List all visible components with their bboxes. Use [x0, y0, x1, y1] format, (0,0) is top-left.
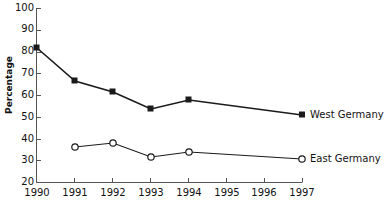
- data-point-marker: [186, 149, 192, 155]
- data-point-marker: [110, 140, 116, 146]
- legend-item-west-germany: West Germany: [310, 109, 384, 120]
- data-point-marker: [299, 112, 305, 118]
- data-point-marker: [34, 45, 40, 51]
- series-east-germany: [72, 140, 305, 162]
- data-point-marker: [148, 106, 154, 112]
- data-point-marker: [72, 78, 78, 84]
- data-point-marker: [148, 154, 154, 160]
- legend-item-east-germany: East Germany: [310, 153, 381, 164]
- data-point-marker: [110, 89, 116, 95]
- series-west-germany: [34, 45, 306, 118]
- x-axis-ticks: [37, 178, 303, 183]
- data-point-marker: [186, 97, 192, 103]
- data-point-marker: [299, 156, 305, 162]
- data-point-marker: [72, 144, 78, 150]
- y-axis-ticks: [37, 9, 42, 183]
